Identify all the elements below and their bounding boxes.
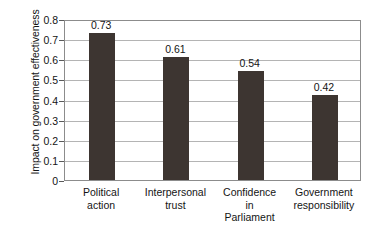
y-axis-tick-label: 0 [18,176,58,186]
y-axis-tick-mark [59,80,64,81]
bar-value-label: 0.54 [220,58,280,69]
y-axis-tick-mark [59,40,64,41]
y-axis-tick-mark [59,20,64,21]
y-axis-tick-mark [59,121,64,122]
y-axis-tick-label: 0.8 [18,15,58,25]
y-axis-tick-label: 0.3 [18,116,58,126]
y-axis-tick-label: 0.4 [18,96,58,106]
bar [89,33,115,180]
y-axis-tick-mark [59,161,64,162]
bar [312,95,338,180]
x-axis-category-label-line: Government [278,186,370,199]
y-axis-tick-label: 0.2 [18,136,58,146]
y-axis-tick-mark [59,141,64,142]
bar-value-label: 0.73 [71,20,131,31]
bar-value-label: 0.61 [145,44,205,55]
bar-value-label: 0.42 [294,82,354,93]
bar [238,71,264,180]
x-axis-category-label: Governmentresponsibility [278,186,370,211]
y-axis-tick-label: 0.7 [18,35,58,45]
y-axis-tick-mark [59,181,64,182]
y-axis-tick-label: 0.1 [18,156,58,166]
x-axis-category-label-line: Parliament [204,211,296,224]
plot-area [64,20,361,181]
y-axis-tick-mark [59,101,64,102]
x-axis-category-label-line: responsibility [278,199,370,212]
bar-chart: Impact on government effectiveness 0.80.… [0,0,384,244]
y-axis-tick-mark [59,60,64,61]
y-axis-tick-label: 0.6 [18,55,58,65]
y-axis-tick-label: 0.5 [18,75,58,85]
bar [163,57,189,180]
